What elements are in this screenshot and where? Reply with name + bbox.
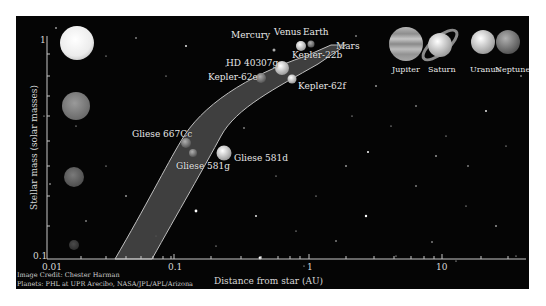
star-tiny <box>69 240 79 250</box>
star-sun-size <box>60 26 94 60</box>
star-medium <box>62 92 90 120</box>
x-tick-1: 1 <box>307 263 313 272</box>
y-tick-0-1: 0.1 <box>33 252 47 261</box>
label-venus: Venus <box>274 28 301 37</box>
y-tick-1: 1 <box>40 36 46 45</box>
label-kepler-62f: Kepler-62f <box>298 82 346 91</box>
label-earth: Earth <box>303 28 329 37</box>
planet-mercury <box>273 49 276 52</box>
planet-kepler-62f <box>288 75 297 84</box>
y-axis-title: Stellar mass (solar masses) <box>29 85 39 210</box>
label-kepler-62e: Kepler-62e <box>208 73 258 82</box>
label-gliese-581d: Gliese 581d <box>234 154 288 163</box>
planet-earth <box>308 41 315 48</box>
chart-panel: Mercury Venus Earth Mars Kepler-22b HD 4… <box>16 16 529 289</box>
planet-gliese-581d <box>217 146 232 161</box>
label-hd40307g: HD 40307g <box>226 59 278 68</box>
label-gliese-581g: Gliese 581g <box>176 162 230 171</box>
label-jupiter: Jupiter <box>392 66 420 74</box>
planets-credit: Planets: PHL at UPR Arecibo, NASA/JPL/AP… <box>17 281 193 288</box>
planet-jupiter <box>389 27 423 61</box>
label-gliese-667cc: Gliese 667Cc <box>132 130 192 139</box>
label-saturn: Saturn <box>428 66 456 74</box>
planet-uranus <box>471 30 495 54</box>
x-tick-10: 10 <box>436 263 447 272</box>
star-small <box>64 167 84 187</box>
planet-neptune <box>496 30 520 54</box>
label-neptune: Neptune <box>495 66 529 74</box>
label-mercury: Mercury <box>231 31 270 40</box>
label-kepler-22b: Kepler-22b <box>292 51 342 60</box>
planet-gliese-667cc <box>181 138 191 148</box>
planet-saturn <box>428 33 452 57</box>
x-axis-title: Distance from star (AU) <box>214 276 323 286</box>
image-credit: Image Credit: Chester Harman <box>17 272 120 279</box>
planet-gliese-581g <box>189 149 197 157</box>
x-tick-0-1: 0.1 <box>168 263 182 272</box>
